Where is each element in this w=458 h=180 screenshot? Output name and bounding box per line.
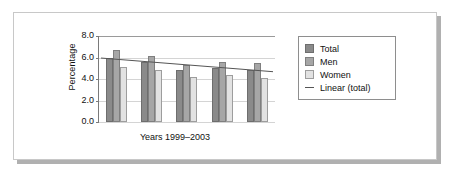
y-axis-tick-label: 6.0 bbox=[64, 53, 94, 62]
legend-item[interactable]: Women bbox=[305, 68, 389, 81]
linear-trendline bbox=[99, 36, 275, 122]
chart-legend: TotalMenWomenLinear (total) bbox=[298, 36, 396, 100]
legend-item[interactable]: Men bbox=[305, 55, 389, 68]
legend-item[interactable]: Total bbox=[305, 42, 389, 55]
legend-swatch-icon bbox=[305, 70, 314, 79]
y-axis-tick-label: 0.0 bbox=[64, 117, 94, 126]
y-axis-tick-mark bbox=[96, 122, 99, 123]
chart-figure: Percentage 0.02.04.06.08.0 Years 1999–20… bbox=[60, 28, 400, 148]
gridline bbox=[99, 122, 275, 123]
legend-item-label: Men bbox=[320, 57, 338, 67]
chart-card: Percentage 0.02.04.06.08.0 Years 1999–20… bbox=[13, 12, 437, 160]
y-axis-title: Percentage bbox=[67, 31, 77, 103]
legend-line-icon bbox=[305, 83, 314, 92]
y-axis-tick-label: 8.0 bbox=[64, 31, 94, 40]
screenshot-root: Percentage 0.02.04.06.08.0 Years 1999–20… bbox=[0, 0, 458, 180]
legend-item-label: Linear (total) bbox=[320, 83, 371, 93]
y-axis-tick-label: 2.0 bbox=[64, 96, 94, 105]
legend-swatch-icon bbox=[305, 44, 314, 53]
x-axis-title: Years 1999–2003 bbox=[60, 132, 290, 142]
legend-item-label: Women bbox=[320, 70, 351, 80]
plot-area bbox=[98, 36, 275, 123]
legend-item-label: Total bbox=[320, 44, 339, 54]
y-axis-tick-label: 4.0 bbox=[64, 74, 94, 83]
legend-item[interactable]: Linear (total) bbox=[305, 81, 389, 94]
legend-swatch-icon bbox=[305, 57, 314, 66]
